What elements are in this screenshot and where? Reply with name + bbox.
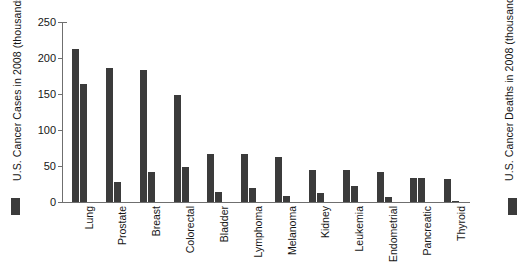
legend-swatch-deaths [508,198,517,215]
bar-cases [106,68,113,202]
bar-cases [140,70,147,202]
x-axis-tick-label: Lymphoma [253,206,264,258]
y-axis-tick-label: 150 [38,89,56,100]
x-axis-tick-label: Bladder [219,206,230,242]
bar-cases [275,157,282,202]
bar-deaths [80,84,87,202]
x-axis-tick-label: Leukemia [354,206,365,252]
y-axis-left-title: U.S. Cancer Cases in 2008 (thousands) [11,21,23,181]
x-axis-tick-label: Kidney [320,206,331,238]
bar-deaths [385,197,392,202]
bar-deaths [418,178,425,202]
y-axis-tick-label: 50 [44,161,56,172]
x-axis-tick-label: Endometrial [388,206,399,262]
x-axis-tick-label: Lung [84,206,95,229]
bar-cases [174,95,181,202]
bar-deaths [452,201,459,202]
bar-deaths [283,196,290,202]
bar-cases [377,172,384,202]
x-axis-category-labels: LungProstateBreastColorectalBladderLymph… [62,206,468,272]
bars-layer [62,22,468,202]
bar-cases [410,178,417,202]
y-axis-tick-label: 200 [38,53,56,64]
x-axis-tick-label: Prostate [117,206,128,245]
y-axis-tick-label: 100 [38,125,56,136]
y-axis-tick-label: 0 [50,197,56,208]
bar-chart: U.S. Cancer Cases in 2008 (thousands) U.… [0,0,529,272]
y-axis-ticks: 050100150200250 [24,14,62,210]
bar-deaths [114,182,121,202]
bar-deaths [351,186,358,202]
x-axis-line [62,202,470,203]
bar-cases [444,179,451,202]
bar-cases [309,170,316,202]
x-axis-tick-label: Melanoma [287,206,298,255]
x-axis-tick-label: Colorectal [185,206,196,253]
bar-deaths [215,192,222,202]
x-axis-tick-label: Pancreatic [422,206,433,256]
bar-deaths [249,188,256,202]
bar-cases [343,170,350,202]
bar-deaths [148,172,155,202]
bar-cases [72,49,79,202]
y-axis-tick-label: 250 [38,17,56,28]
bar-cases [241,154,248,202]
plot-area [62,22,468,202]
legend-swatch-cases [11,198,20,215]
bar-cases [207,154,214,202]
y-axis-right-title: U.S. Cancer Deaths in 2008 (thousands) [503,21,515,181]
x-axis-tick-label: Thyroid [456,206,467,241]
bar-deaths [317,193,324,202]
x-axis-tick-label: Breast [151,206,162,236]
bar-deaths [182,167,189,202]
